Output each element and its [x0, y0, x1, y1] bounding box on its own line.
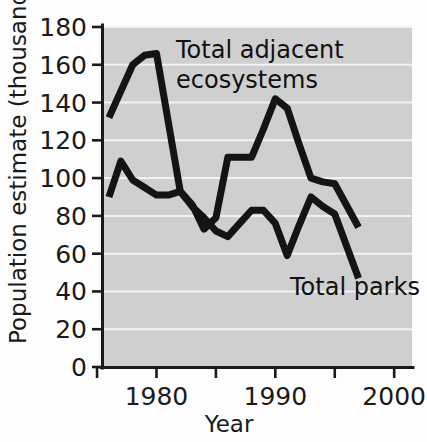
- y-tick-label: 20: [55, 315, 87, 344]
- x-axis-ticks: 198019902000: [97, 367, 426, 411]
- y-tick-label: 100: [39, 164, 87, 193]
- y-tick-label: 140: [39, 89, 87, 118]
- line-chart: 020406080100120140160180 198019902000 To…: [0, 0, 427, 442]
- y-axis-title: Population estimate (thousands): [5, 0, 31, 344]
- chart-figure: 020406080100120140160180 198019902000 To…: [0, 0, 427, 442]
- y-tick-label: 60: [55, 240, 87, 269]
- x-tick-label: 2000: [362, 382, 426, 411]
- x-tick-label: 1990: [244, 382, 308, 411]
- y-tick-label: 0: [71, 353, 87, 382]
- x-tick-label: 1980: [125, 382, 189, 411]
- y-tick-label: 40: [55, 277, 87, 306]
- series-label-ecosystems-line1: Total adjacent: [175, 36, 344, 64]
- x-axis-title: Year: [204, 411, 254, 437]
- y-axis-ticks: 020406080100120140160180: [39, 13, 103, 382]
- y-tick-label: 80: [55, 202, 87, 231]
- series-label-ecosystems-line2: ecosystems: [176, 66, 318, 94]
- y-tick-label: 160: [39, 51, 87, 80]
- series-label-total-parks: Total parks: [289, 273, 420, 301]
- y-tick-label: 180: [39, 13, 87, 42]
- y-tick-label: 120: [39, 126, 87, 155]
